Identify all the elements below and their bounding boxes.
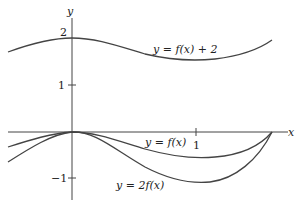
y-tick-label-1: 1 [58,79,65,92]
y-tick-label-2: 2 [60,26,67,39]
annotation-f-plus-2: y = f(x) + 2 [152,43,218,56]
chart-canvas: y x 1 2 1 −1 y = f(x) + 2 y = f(x) y = 2… [0,0,299,205]
curve-f [8,132,272,158]
curve-2f [8,132,272,183]
annotation-2f: y = 2f(x) [115,179,164,192]
annotation-f: y = f(x) [144,136,186,149]
curve-f-plus-2 [8,38,272,60]
x-axis-label: x [288,126,295,139]
y-axis-label: y [66,5,74,18]
x-tick-label-1: 1 [193,139,200,152]
y-tick-label-minus1: −1 [51,172,67,185]
